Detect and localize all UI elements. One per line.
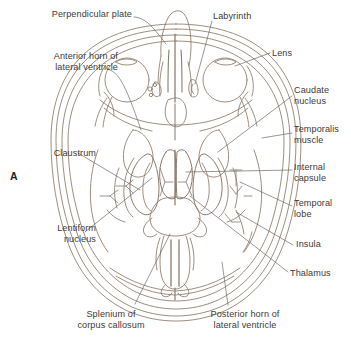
label-perpendicular-plate: Perpendicular plate xyxy=(12,9,132,20)
label-thalamus: Thalamus xyxy=(290,268,348,279)
label-caudate-nucleus: Caudate nucleus xyxy=(294,85,350,106)
insula-right xyxy=(225,168,244,234)
label-insula: Insula xyxy=(296,239,346,250)
posterior-horn-right xyxy=(190,238,194,270)
label-temporal-lobe: Temporal lobe xyxy=(294,198,350,219)
label-claustrum: Claustrum xyxy=(10,148,96,159)
right-orbit xyxy=(203,58,257,127)
left-lens xyxy=(116,59,137,65)
leader-caudate-nucleus xyxy=(218,96,292,152)
label-lens: Lens xyxy=(272,48,322,59)
posterior-horn-left xyxy=(156,238,160,270)
temporal-lobe-right xyxy=(227,150,262,252)
label-posterior-horn-of-lateral-ventricle: Posterior horn of lateral ventricle xyxy=(193,309,297,330)
right-lens xyxy=(215,59,236,65)
leader-posterior-horn xyxy=(222,262,228,305)
splenium-corpus-callosum xyxy=(160,236,190,289)
leader-lens xyxy=(235,53,270,66)
label-temporalis-muscle: Temporalis muscle xyxy=(294,124,350,145)
leader-thalamus xyxy=(190,196,288,272)
lentiform-nucleus-right xyxy=(193,154,222,215)
label-labyrinth: Labyrinth xyxy=(213,11,283,22)
anatomy-figure: A Perpendicular plate Labyrinth Lens Ant… xyxy=(0,0,351,338)
label-splenium-of-corpus-callosum: Splenium of corpus callosum xyxy=(62,309,160,330)
label-anterior-horn-of-lateral-ventricle: Anterior horn of lateral ventricle xyxy=(14,51,118,72)
panel-letter: A xyxy=(10,170,18,182)
internal-capsule-left xyxy=(160,168,173,196)
label-internal-capsule: Internal capsule xyxy=(294,162,350,183)
leader-temporalis-muscle xyxy=(262,133,292,138)
label-lentiform-nucleus: Lentiform nucleus xyxy=(16,223,96,244)
leader-insula xyxy=(236,212,293,245)
leader-anterior-horn xyxy=(107,69,141,130)
occipital-region xyxy=(110,268,240,300)
leader-splenium xyxy=(135,234,170,304)
leader-temporal-lobe xyxy=(240,182,292,206)
